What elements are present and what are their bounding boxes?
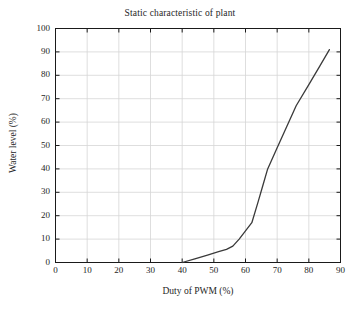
x-tick-label: 30 (138, 265, 164, 275)
y-tick-label: 30 (24, 186, 50, 196)
x-tick-label: 90 (328, 265, 354, 275)
chart-title: Static characteristic of plant (0, 8, 360, 18)
y-tick-label: 50 (24, 140, 50, 150)
x-tick-label: 40 (169, 265, 195, 275)
x-tick-label: 0 (43, 265, 69, 275)
series-line-0 (182, 50, 329, 263)
y-axis-title: Water level (%) (8, 83, 18, 203)
x-tick-label: 70 (264, 265, 290, 275)
x-axis-title: Duty of PWM (%) (55, 286, 341, 296)
x-tick-label: 60 (233, 265, 259, 275)
y-tick-label: 0 (24, 257, 50, 267)
y-tick-label: 70 (24, 93, 50, 103)
chart-figure: Static characteristic of plant Water lev… (0, 0, 360, 312)
y-tick-label: 80 (24, 69, 50, 79)
x-tick-label: 10 (74, 265, 100, 275)
x-tick-label: 20 (106, 265, 132, 275)
y-tick-label: 10 (24, 233, 50, 243)
grid-lines (56, 29, 341, 263)
x-tick-label: 80 (296, 265, 322, 275)
y-tick-label: 90 (24, 46, 50, 56)
data-series (182, 50, 329, 263)
y-tick-label: 40 (24, 163, 50, 173)
y-tick-label: 20 (24, 210, 50, 220)
y-tick-label: 60 (24, 116, 50, 126)
x-tick-label: 50 (201, 265, 227, 275)
y-tick-label: 100 (24, 23, 50, 33)
